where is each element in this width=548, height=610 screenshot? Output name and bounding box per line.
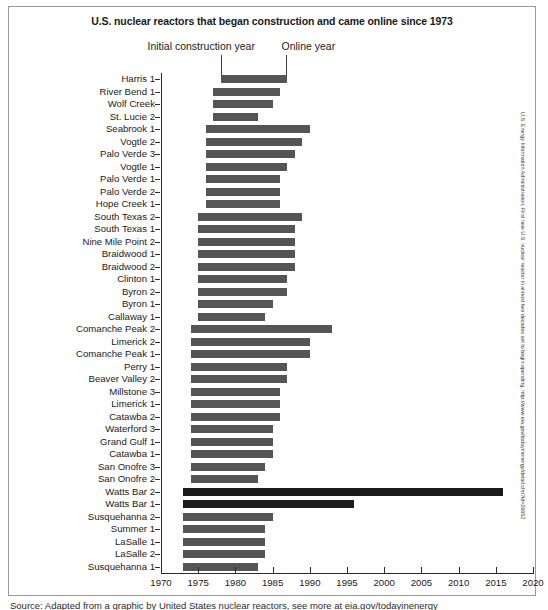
- row-tick: [155, 204, 160, 205]
- row-tick: [155, 242, 160, 243]
- bar: [191, 413, 280, 421]
- bar: [198, 213, 302, 221]
- row-tick: [155, 442, 160, 443]
- bar: [191, 463, 265, 471]
- row-tick: [155, 517, 160, 518]
- bar: [191, 425, 273, 433]
- bar: [206, 163, 288, 171]
- bar: [183, 500, 354, 508]
- bar: [183, 488, 503, 496]
- bar: [183, 550, 265, 558]
- x-tick: [273, 567, 274, 574]
- bar-row: South Texas 1: [9, 223, 535, 236]
- bar-row: Susquehanna 2: [9, 511, 535, 524]
- row-label: Wolf Creek: [108, 98, 155, 111]
- bar-row: Summer 1: [9, 523, 535, 536]
- bar: [191, 350, 310, 358]
- bar: [183, 538, 265, 546]
- row-tick: [155, 417, 160, 418]
- source-note: U.S. Energy Information Administration, …: [520, 112, 526, 119]
- bar: [198, 263, 295, 271]
- x-tick: [161, 567, 162, 574]
- bar-row: Nine Mile Point 2: [9, 236, 535, 249]
- bar-row: Callaway 1: [9, 311, 535, 324]
- bar: [183, 513, 272, 521]
- row-label: Watts Bar 2: [105, 486, 155, 499]
- row-tick: [155, 167, 160, 168]
- bar: [191, 325, 332, 333]
- bar-row: Harris 1: [9, 73, 535, 86]
- row-tick: [155, 567, 160, 568]
- row-tick: [155, 342, 160, 343]
- row-label: Vogtle 1: [120, 161, 155, 174]
- row-tick: [155, 554, 160, 555]
- row-label: Harris 1: [121, 73, 155, 86]
- row-label: Grand Gulf 1: [100, 436, 155, 449]
- x-tick: [384, 567, 385, 574]
- row-label: San Onofre 2: [98, 473, 155, 486]
- x-tick: [235, 567, 236, 574]
- row-tick: [155, 292, 160, 293]
- bar-row: Vogtle 2: [9, 136, 535, 149]
- x-tick-label: 2010: [448, 577, 469, 588]
- row-label: Nine Mile Point 2: [82, 236, 155, 249]
- row-label: LaSalle 2: [115, 548, 155, 561]
- row-label: Perry 1: [124, 361, 155, 374]
- bar-row: LaSalle 1: [9, 536, 535, 549]
- x-tick: [310, 567, 311, 574]
- row-label: Comanche Peak 2: [76, 323, 155, 336]
- bar-row: Perry 1: [9, 361, 535, 374]
- x-tick: [459, 567, 460, 574]
- row-label: River Bend 1: [100, 86, 155, 99]
- row-label: Summer 1: [111, 523, 155, 536]
- row-tick: [155, 429, 160, 430]
- row-tick: [155, 129, 160, 130]
- chart-figure: U.S. nuclear reactors that began constru…: [8, 6, 536, 596]
- row-label: Byron 2: [122, 286, 155, 299]
- bar: [221, 75, 288, 83]
- row-label: Callaway 1: [108, 311, 155, 324]
- source-note-wrap: U.S. Energy Information Administration, …: [522, 112, 532, 582]
- row-tick: [155, 92, 160, 93]
- bar-row: Hope Creek 1: [9, 198, 535, 211]
- bar: [198, 313, 265, 321]
- bar: [191, 388, 280, 396]
- bar: [213, 100, 273, 108]
- row-tick: [155, 367, 160, 368]
- figure-caption: Source: Adapted from a graphic by United…: [10, 600, 538, 610]
- y-axis-line: [161, 73, 162, 573]
- bar-row: River Bend 1: [9, 86, 535, 99]
- bar-row: Watts Bar 2: [9, 486, 535, 499]
- bar: [206, 175, 280, 183]
- row-tick: [155, 304, 160, 305]
- row-tick: [155, 542, 160, 543]
- bar: [191, 475, 258, 483]
- row-tick: [155, 267, 160, 268]
- x-tick-label: 1995: [336, 577, 357, 588]
- bar: [198, 250, 295, 258]
- row-tick: [155, 329, 160, 330]
- row-label: Millstone 3: [109, 386, 155, 399]
- bar-row: Millstone 3: [9, 386, 535, 399]
- row-label: Clinton 1: [117, 273, 155, 286]
- row-tick: [155, 479, 160, 480]
- bar-row: San Onofre 2: [9, 473, 535, 486]
- bar-row: Clinton 1: [9, 273, 535, 286]
- x-tick: [421, 567, 422, 574]
- bar-row: Comanche Peak 1: [9, 348, 535, 361]
- bar-row: Byron 2: [9, 286, 535, 299]
- x-tick: [198, 567, 199, 574]
- x-tick-label: 1990: [299, 577, 320, 588]
- bar-row: Palo Verde 3: [9, 148, 535, 161]
- x-tick-label: 1970: [150, 577, 171, 588]
- row-label: LaSalle 1: [115, 536, 155, 549]
- row-tick: [155, 354, 160, 355]
- row-label: Palo Verde 3: [100, 148, 155, 161]
- row-label: Braidwood 2: [102, 261, 155, 274]
- row-tick: [155, 192, 160, 193]
- row-label: Waterford 3: [105, 423, 155, 436]
- row-tick: [155, 117, 160, 118]
- bar: [213, 113, 258, 121]
- bar-row: Braidwood 1: [9, 248, 535, 261]
- bar: [206, 138, 303, 146]
